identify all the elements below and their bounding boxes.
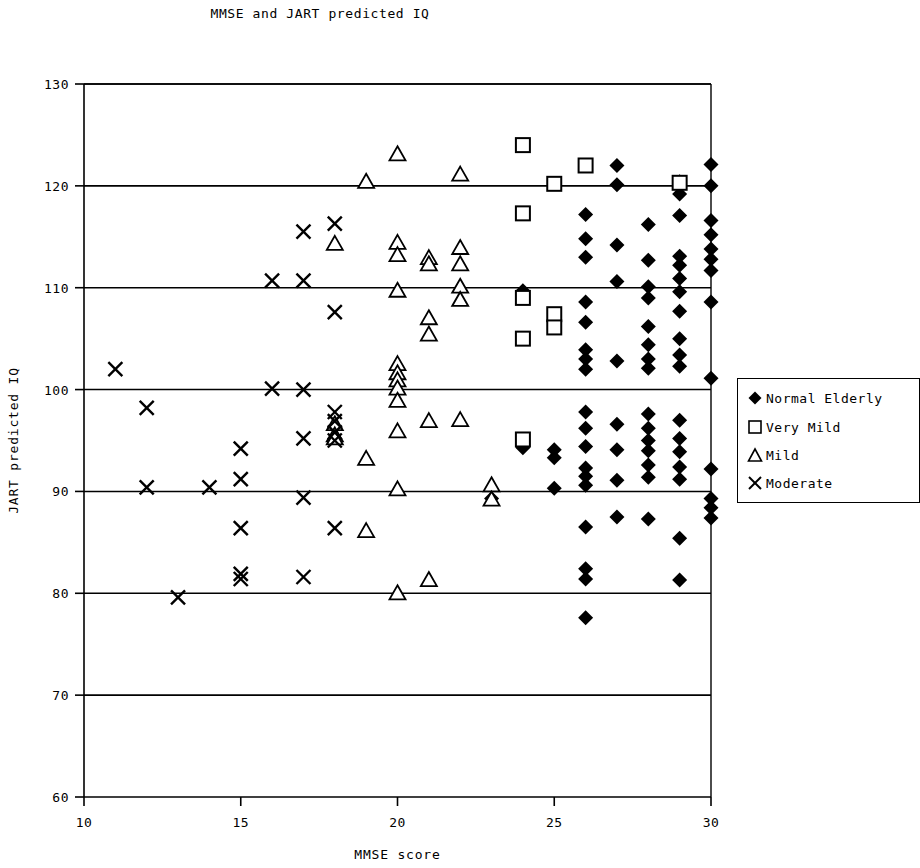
data-point (641, 470, 656, 485)
legend-label-normal-elderly: Normal Elderly (766, 392, 883, 405)
data-point (296, 570, 310, 584)
data-point (390, 585, 406, 599)
data-point (516, 206, 530, 220)
data-point (672, 472, 687, 487)
data-point (578, 294, 593, 309)
data-point (516, 291, 530, 305)
x-tick-label: 30 (703, 815, 720, 830)
data-point (296, 431, 310, 445)
data-point (704, 263, 719, 278)
y-tick-label: 120 (44, 179, 69, 194)
data-point (202, 480, 216, 494)
data-point (358, 451, 374, 465)
data-point (234, 472, 248, 486)
data-point (641, 407, 656, 422)
data-point (641, 253, 656, 268)
data-point (609, 177, 624, 192)
legend-item-moderate: Moderate (746, 470, 833, 496)
data-point (641, 217, 656, 232)
data-point (547, 320, 561, 334)
data-point (672, 331, 687, 346)
series-normal-elderly (484, 157, 718, 625)
data-point (578, 439, 593, 454)
x-tick-label: 15 (232, 815, 249, 830)
data-point (704, 157, 719, 172)
data-point (578, 404, 593, 419)
data-point (609, 442, 624, 457)
data-point (578, 478, 593, 493)
data-point (171, 590, 185, 604)
data-point (421, 327, 437, 341)
filled-diamond-icon (746, 389, 764, 407)
data-point (641, 290, 656, 305)
data-point (672, 208, 687, 223)
legend-item-very-mild: Very Mild (746, 414, 841, 440)
legend-label-mild: Mild (766, 449, 799, 462)
data-point (452, 240, 468, 254)
legend: Normal Elderly Very Mild Mild Moderate (737, 378, 920, 503)
data-point (108, 362, 122, 376)
data-point (547, 177, 561, 191)
data-point (421, 310, 437, 324)
data-point (578, 207, 593, 222)
x-tick-label: 25 (546, 815, 563, 830)
data-point (484, 477, 500, 491)
data-point (578, 315, 593, 330)
data-point (641, 337, 656, 352)
data-point (328, 521, 342, 535)
data-point (672, 531, 687, 546)
data-point (704, 178, 719, 193)
y-tick-label: 110 (44, 281, 69, 296)
y-tick-label: 130 (44, 77, 69, 92)
cross-icon (746, 474, 764, 492)
legend-item-mild: Mild (746, 442, 799, 468)
data-point (140, 401, 154, 415)
open-square-icon (746, 418, 764, 436)
data-point (672, 271, 687, 286)
data-point (704, 227, 719, 242)
data-point (327, 236, 343, 250)
data-point (265, 382, 279, 396)
data-point (516, 432, 530, 446)
data-point (390, 283, 406, 297)
data-point (390, 423, 406, 437)
data-point (609, 354, 624, 369)
data-point (578, 250, 593, 265)
data-point (296, 491, 310, 505)
data-point (672, 413, 687, 428)
series-moderate (108, 217, 341, 605)
data-point (704, 510, 719, 525)
y-axis-title: JART predicted IQ (6, 367, 21, 514)
data-point (578, 520, 593, 535)
data-point (609, 509, 624, 524)
data-point (704, 213, 719, 228)
series-very-mild (516, 138, 687, 446)
data-point (704, 294, 719, 309)
data-point (296, 274, 310, 288)
data-point (358, 174, 374, 188)
data-point (609, 417, 624, 432)
x-axis-title: MMSE score (354, 847, 440, 862)
data-point (452, 167, 468, 181)
legend-label-moderate: Moderate (766, 477, 833, 490)
data-point (579, 158, 593, 172)
legend-item-normal-elderly: Normal Elderly (746, 385, 883, 411)
data-point (452, 256, 468, 270)
data-point (578, 231, 593, 246)
data-point (672, 258, 687, 273)
data-point (609, 237, 624, 252)
data-point (609, 158, 624, 173)
data-point (358, 523, 374, 537)
data-point (578, 610, 593, 625)
data-point (452, 292, 468, 306)
data-point (421, 413, 437, 427)
x-tick-label: 10 (76, 815, 93, 830)
data-point (328, 217, 342, 231)
data-point (672, 304, 687, 319)
x-tick-label: 20 (389, 815, 406, 830)
data-point (452, 412, 468, 426)
data-point (578, 362, 593, 377)
data-point (516, 332, 530, 346)
data-point (578, 421, 593, 436)
data-point (672, 431, 687, 446)
